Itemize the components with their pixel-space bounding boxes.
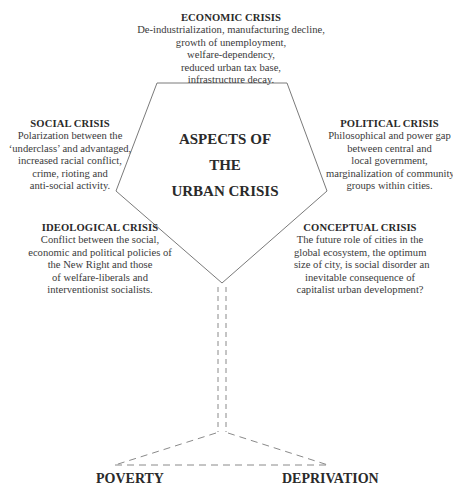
center-title-line: THE [150, 152, 300, 178]
deprivation-label: DEPRIVATION [282, 471, 379, 487]
ideological-crisis-line: Conflict between the social, [20, 234, 180, 246]
political-crisis-block: POLITICAL CRISIS Philosophical and power… [326, 118, 453, 192]
economic-crisis-line: reduced urban tax base, [126, 62, 336, 74]
political-crisis-line: between central and [326, 143, 453, 155]
political-crisis-line: groups within cities. [326, 180, 453, 192]
political-crisis-line: marginalization of community [326, 168, 453, 180]
political-crisis-heading: POLITICAL CRISIS [326, 118, 453, 130]
poverty-label: POVERTY [96, 471, 164, 487]
center-title-line: ASPECTS OF [150, 126, 300, 152]
social-crisis-line: ‘underclass’ and advantaged, [0, 143, 140, 155]
conceptual-crisis-heading: CONCEPTUAL CRISIS [294, 222, 426, 234]
base-right-slope [228, 433, 328, 465]
ideological-crisis-line: economic and political policies of [20, 247, 180, 259]
ideological-crisis-line: the New Right and those [20, 259, 180, 271]
economic-crisis-line: welfare-dependency, [126, 49, 336, 61]
economic-crisis-heading: ECONOMIC CRISIS [126, 12, 336, 24]
economic-crisis-line: infrastructure decay. [126, 74, 336, 86]
social-crisis-heading: SOCIAL CRISIS [0, 118, 140, 130]
social-crisis-line: crime, rioting and [0, 168, 140, 180]
economic-crisis-block: ECONOMIC CRISIS De-industrialization, ma… [126, 12, 336, 86]
social-crisis-line: increased racial conflict, [0, 155, 140, 167]
ideological-crisis-heading: IDEOLOGICAL CRISIS [20, 222, 180, 234]
conceptual-crisis-line: global ecosystem, the optimum [294, 247, 426, 259]
social-crisis-line: anti-social activity. [0, 180, 140, 192]
base-left-slope [115, 433, 216, 465]
social-crisis-block: SOCIAL CRISIS Polarization between the ‘… [0, 118, 140, 192]
ideological-crisis-line: interventionist socialists. [20, 284, 180, 296]
conceptual-crisis-line: capitalist urban development? [294, 284, 426, 296]
center-title-line: URBAN CRISIS [150, 178, 300, 204]
political-crisis-line: local government, [326, 155, 453, 167]
conceptual-crisis-line: inevitable consequence of [294, 272, 426, 284]
economic-crisis-line: De-industrialization, manufacturing decl… [126, 24, 336, 36]
center-title: ASPECTS OF THE URBAN CRISIS [150, 126, 300, 204]
ideological-crisis-line: of welfare-liberals and [20, 272, 180, 284]
political-crisis-line: Philosophical and power gap [326, 130, 453, 142]
conceptual-crisis-line: The future role of cities in the [294, 234, 426, 246]
ideological-crisis-block: IDEOLOGICAL CRISIS Conflict between the … [20, 222, 180, 296]
conceptual-crisis-line: size of city, is social disorder an [294, 259, 426, 271]
social-crisis-line: Polarization between the [0, 130, 140, 142]
economic-crisis-line: growth of unemployment, [126, 37, 336, 49]
conceptual-crisis-block: CONCEPTUAL CRISIS The future role of cit… [294, 222, 426, 296]
